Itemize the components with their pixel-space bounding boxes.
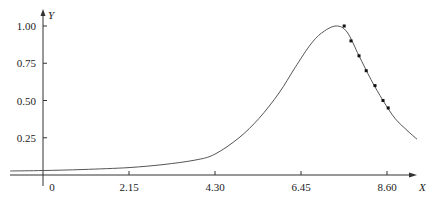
data-point [382,99,385,102]
fitted-curve-line [10,26,417,171]
x-tick-label: 0 [49,181,55,193]
chart: Y 0.250.500.751.00 X 02.154.306.458.60 [0,0,432,204]
data-point [358,54,361,57]
x-tick-label: 8.60 [377,181,397,193]
y-tick-label: 0.50 [17,95,37,107]
x-axis: X 02.154.306.458.60 [10,171,427,193]
data-point [387,106,390,109]
data-point [365,69,368,72]
data-point [374,84,377,87]
y-tick-label: 0.25 [17,132,37,144]
x-ticks: 02.154.306.458.60 [49,171,397,193]
y-axis: Y 0.250.500.751.00 [17,9,56,186]
y-tick-label: 0.75 [17,57,37,69]
y-ticks: 0.250.500.751.00 [17,20,47,144]
data-point [350,39,353,42]
x-tick-label: 2.15 [119,181,139,193]
x-tick-label: 6.45 [291,181,311,193]
y-axis-label: Y [48,9,56,21]
x-axis-arrow-icon [409,173,417,178]
x-axis-label: X [418,181,427,193]
x-tick-label: 4.30 [205,181,225,193]
y-axis-arrow-icon [41,9,46,16]
data-point [343,25,346,28]
y-tick-label: 1.00 [17,20,37,32]
